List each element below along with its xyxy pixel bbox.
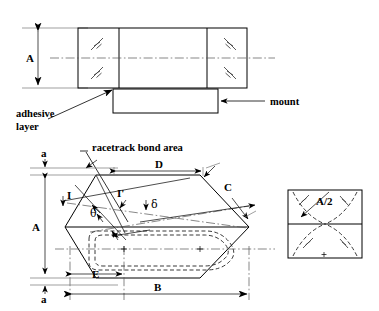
technical-diagram-figure: A adhesive layer mount — [0, 0, 379, 311]
hatch-mark — [342, 242, 346, 245]
arrow-Iprime — [120, 200, 126, 208]
leader-line-adhesive — [48, 90, 112, 119]
arrow-theta-b — [97, 214, 103, 222]
ray-delta-lower — [90, 206, 249, 232]
angle-construction-lines — [63, 175, 190, 240]
hatch-mark — [342, 199, 346, 202]
dimension-label-C: C — [224, 181, 232, 193]
dimension-label-B: B — [154, 281, 162, 293]
racetrack-bond-area-outline — [89, 231, 234, 270]
detail-cross-mark — [322, 252, 327, 257]
detail-box-view: A/2 — [288, 190, 362, 258]
hatch-mark — [227, 71, 233, 75]
hatch-mark — [306, 241, 311, 245]
hatch-mark — [302, 198, 307, 202]
hatch-symbol-group — [91, 38, 236, 79]
dimension-arrow-C-upper — [204, 166, 215, 177]
construction-line-upper — [63, 178, 190, 201]
callout-adhesive-line2: layer — [16, 121, 39, 132]
dimension-label-a-top: a — [41, 147, 47, 159]
extension-line-C-b — [245, 211, 256, 217]
hatch-mark — [97, 44, 102, 49]
label-I-prime: I' — [117, 187, 124, 199]
angle-label-delta: δ — [151, 198, 158, 211]
dimension-label-E: E — [92, 268, 99, 280]
cross-mark-right — [197, 246, 203, 252]
hatch-mark — [94, 42, 100, 46]
hatch-mark — [227, 42, 233, 46]
callout-racetrack: racetrack bond area — [92, 142, 184, 153]
hatch-mark — [226, 73, 231, 78]
detail-arc-bottom-left — [293, 224, 325, 256]
detail-arrow-group — [63, 160, 146, 240]
construction-line-slant — [96, 175, 125, 233]
plan-hexagon-view: racetrack bond area — [30, 142, 275, 305]
diagram-canvas: A adhesive layer mount — [0, 0, 379, 311]
dimension-label-A-half: A/2 — [316, 195, 333, 207]
callout-mount: mount — [270, 96, 300, 107]
hatch-mark — [94, 71, 100, 75]
dimension-label-a-bottom: a — [41, 293, 47, 305]
hatch-mark — [226, 44, 231, 49]
callout-adhesive-line1: adhesive — [16, 108, 55, 119]
top-elevation-view: A adhesive layer mount — [16, 28, 300, 132]
dimension-label-D: D — [155, 158, 163, 170]
racetrack-bond-area-inner — [95, 235, 228, 266]
label-I: I — [67, 189, 71, 201]
hatch-mark — [97, 73, 102, 78]
cross-mark-left — [121, 246, 127, 252]
extension-line-C-a — [206, 163, 220, 168]
mount-block-outline — [113, 89, 218, 113]
dimension-label-A-top: A — [26, 52, 34, 64]
angle-label-theta: θ — [90, 207, 97, 220]
dimension-label-A-plan: A — [32, 221, 40, 233]
